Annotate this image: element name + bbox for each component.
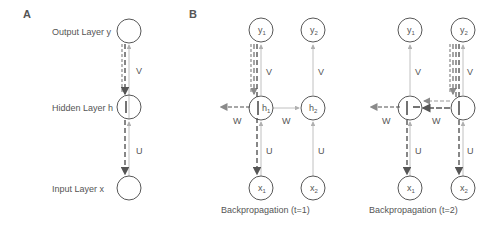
weight-u2-label: U <box>467 146 474 156</box>
panel-b: B y1 y2 h1 h2 x1 x2 V V W W U U Backprop… <box>189 8 325 215</box>
weight-u1-label: U <box>266 146 273 156</box>
panel-a: A Output Layer y Hidden Layer h Input La… <box>23 8 143 200</box>
weight-w-mid-label: W <box>282 116 291 126</box>
node-y2-label: y2 <box>310 25 319 36</box>
node-output <box>117 19 141 43</box>
node-x1-label: x1 <box>407 183 416 194</box>
rnn-backprop-diagram: A Output Layer y Hidden Layer h Input La… <box>0 0 503 225</box>
caption-t2: Backpropagation (t=2) <box>369 205 458 215</box>
node-input <box>117 176 141 200</box>
weight-u-label: U <box>136 146 143 156</box>
node-x2-label: x2 <box>310 183 319 194</box>
weight-w-mid-label: W <box>432 116 441 126</box>
node-h2 <box>451 96 475 120</box>
weight-v2-label: V <box>467 67 473 77</box>
output-layer-label: Output Layer y <box>52 27 112 37</box>
node-h1 <box>398 96 422 120</box>
node-h2-label: h2 <box>309 103 318 114</box>
weight-v1-label: V <box>266 67 272 77</box>
input-layer-label: Input Layer x <box>52 184 105 194</box>
panel-c: y1 y2 x1 x2 V V W W U U Backpropagation … <box>369 18 475 215</box>
weight-v1-label: V <box>415 67 421 77</box>
panel-b-letter: B <box>189 8 197 20</box>
node-y1-label: y1 <box>258 25 267 36</box>
node-y2-label: y2 <box>460 25 469 36</box>
weight-w-left-label: W <box>233 116 242 126</box>
weight-w-left-label: W <box>382 116 391 126</box>
node-h1-label: h1 <box>262 103 271 114</box>
weight-v2-label: V <box>318 67 324 77</box>
weight-v-label: V <box>136 66 142 76</box>
caption-t1: Backpropagation (t=1) <box>221 205 310 215</box>
weight-u1-label: U <box>415 146 422 156</box>
panel-a-letter: A <box>23 8 31 20</box>
node-x1-label: x1 <box>258 183 267 194</box>
weight-u2-label: U <box>318 146 325 156</box>
node-y1-label: y1 <box>407 25 416 36</box>
hidden-layer-label: Hidden Layer h <box>52 103 113 113</box>
node-x2-label: x2 <box>460 183 469 194</box>
